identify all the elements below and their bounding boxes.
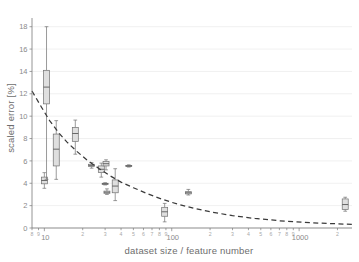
y-tick-label: 8 (23, 134, 27, 143)
x-tick-label-minor: 5 (132, 231, 135, 237)
x-tick-label-minor: 5 (259, 231, 262, 237)
boxplot-chart: 024681012141618 892345678923456789210100… (0, 0, 359, 262)
x-axis-title: dataset size / feature number (125, 245, 254, 256)
x-tick-label-minor: 4 (247, 231, 250, 237)
x-tick-label-minor: 4 (120, 231, 123, 237)
x-tick-label-minor: 6 (142, 231, 145, 237)
x-tick-label-major: 100 (166, 233, 179, 242)
x-tick-label-minor: 7 (151, 231, 154, 237)
x-tick-label-minor: 2 (336, 231, 339, 237)
x-tick-label-minor: 3 (231, 231, 234, 237)
y-tick-label: 10 (19, 112, 27, 121)
x-tick-label-minor: 8 (31, 231, 34, 237)
x-tick-label-major: 1000 (292, 233, 309, 242)
y-tick-label: 12 (19, 89, 27, 98)
y-tick-label: 6 (23, 157, 27, 166)
boxplot (342, 197, 348, 211)
x-tick-label-minor: 3 (104, 231, 107, 237)
y-tick-label: 0 (23, 224, 27, 233)
boxplot (126, 165, 132, 167)
x-tick-label-major: 10 (41, 233, 49, 242)
x-tick-label-minor: 7 (278, 231, 281, 237)
y-tick-label: 4 (23, 179, 27, 188)
y-tick-label: 18 (19, 22, 27, 31)
box-iqr (72, 127, 78, 141)
x-tick-label-minor: 6 (269, 231, 272, 237)
y-tick-label: 14 (19, 67, 27, 76)
x-tick-label-minor: 9 (37, 231, 40, 237)
x-tick-label-minor: 2 (209, 231, 212, 237)
x-tick-label-minor: 2 (81, 231, 84, 237)
x-tick-label-minor: 8 (158, 231, 161, 237)
y-axis-title: scaled error [%] (5, 83, 16, 153)
box-iqr (53, 134, 59, 166)
y-tick-label: 2 (23, 201, 27, 210)
y-tick-label: 16 (19, 45, 27, 54)
boxplot (102, 183, 108, 185)
x-tick-label-minor: 8 (285, 231, 288, 237)
